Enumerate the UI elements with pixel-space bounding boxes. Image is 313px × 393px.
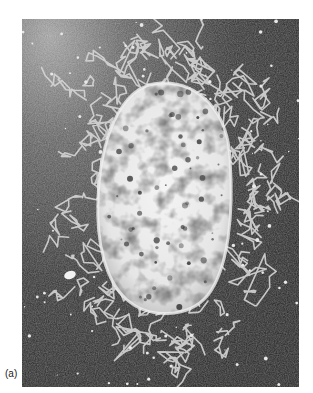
speckle [176, 327, 177, 328]
cell-spot [218, 163, 220, 165]
speckle [70, 314, 72, 316]
speckle [232, 244, 235, 247]
speckle [236, 363, 239, 366]
speckle [124, 45, 126, 47]
speckle [77, 373, 79, 375]
cell-spot [219, 134, 223, 138]
cell-spot [190, 168, 192, 170]
cell-spot [123, 126, 129, 132]
speckle [252, 184, 256, 188]
speckle [52, 230, 54, 232]
speckle [28, 334, 31, 337]
speckle [260, 140, 262, 142]
speckle [91, 305, 93, 307]
micrograph-svg [22, 19, 299, 387]
cell-spot [176, 304, 182, 310]
speckle [142, 75, 145, 78]
speckle [143, 68, 146, 71]
cell-spot [155, 92, 158, 95]
speckle [146, 352, 149, 355]
panel-label: (a) [5, 368, 17, 380]
figure: (a) [0, 0, 313, 393]
speckle [69, 72, 71, 74]
speckle [60, 33, 63, 36]
speckle [209, 98, 211, 100]
speckle [152, 357, 155, 360]
cell-spot [145, 129, 148, 132]
speckle [264, 357, 268, 361]
cell-spot [185, 157, 190, 162]
speckle [241, 243, 243, 245]
cell-spot [179, 243, 184, 248]
speckle [208, 80, 212, 84]
cell-spot [155, 246, 158, 249]
cell-spot [128, 143, 133, 148]
speckle [31, 43, 33, 45]
cell-spot [154, 185, 159, 190]
speckle [231, 69, 232, 70]
cell-spot [165, 184, 167, 186]
speckle [136, 22, 137, 23]
cell-spot [139, 296, 142, 299]
cell-spot [116, 149, 122, 155]
speckle [241, 264, 244, 267]
speckle [117, 317, 119, 319]
cell-spot [137, 211, 142, 216]
speckle [267, 210, 269, 212]
speckle [250, 130, 252, 132]
speckle [267, 124, 268, 125]
cell-spot [178, 134, 182, 138]
speckle [186, 52, 188, 54]
speckle [57, 374, 58, 375]
cell-spot [196, 116, 199, 119]
speckle [78, 115, 81, 118]
speckle [99, 150, 103, 154]
speckle [261, 271, 264, 274]
cell-spot [181, 143, 186, 148]
speckle [164, 334, 167, 337]
speckle [77, 56, 80, 59]
speckle [192, 65, 193, 66]
speckle [284, 281, 287, 284]
cell-spot [127, 176, 133, 182]
cell-spot [154, 261, 157, 264]
speckle [99, 46, 101, 48]
cell-spot [200, 175, 206, 181]
cell-spot [144, 298, 147, 301]
cell-spot [196, 156, 199, 159]
cell-spot [199, 197, 204, 202]
cell-spot [116, 195, 118, 197]
cell-spot [203, 109, 209, 115]
cell-spot [172, 166, 177, 171]
cell-spot [175, 114, 181, 120]
speckle [136, 383, 138, 385]
cell-spot [146, 294, 151, 299]
speckle [44, 301, 46, 303]
speckle [24, 306, 25, 307]
cell-spot [211, 238, 213, 240]
cell-spot [121, 239, 123, 241]
speckle [190, 334, 193, 337]
cell-spot [128, 227, 133, 232]
cell-spot [187, 261, 191, 265]
cell-spot [197, 139, 202, 144]
cell-spot [154, 237, 160, 243]
speckle [37, 209, 39, 211]
cell-spot [139, 252, 144, 257]
micrograph-image [22, 19, 299, 387]
speckle [277, 383, 280, 386]
speckle [274, 19, 278, 23]
speckle [249, 269, 251, 271]
cell-spot [212, 232, 214, 234]
speckle [288, 151, 290, 153]
speckle [226, 313, 229, 316]
cell-spot [107, 215, 111, 219]
cell-spot [167, 275, 172, 280]
cell-spot [152, 286, 156, 290]
speckle [278, 287, 281, 290]
speckle [259, 85, 262, 88]
cell-spot [183, 226, 188, 231]
cell-spot [185, 201, 189, 205]
speckle [252, 153, 253, 154]
cell-spot [138, 191, 142, 195]
